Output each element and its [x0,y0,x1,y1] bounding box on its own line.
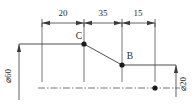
arrowhead-up-diameter-20 [174,65,178,73]
point-markers: C B [76,31,158,91]
diameter-60-dimension: ⌀60 [3,44,21,100]
arrowhead-left-seg1 [76,21,84,25]
diameter-20-label: ⌀20 [178,77,188,92]
horizontal-dimension-chain: 20 35 15 [42,8,155,82]
point-marker-c [81,41,86,46]
arrowhead-right-seg3 [122,21,130,25]
point-marker-b [119,62,124,67]
arrowhead-left-seg3 [147,21,155,25]
arrowhead-left-seg2 [114,21,122,25]
profile-taper-edge [84,44,122,65]
diameter-20-dimension: ⌀20 [174,65,188,97]
point-marker-axis [152,85,157,90]
point-label-c: C [76,31,82,41]
arrowhead-right-seg1 [42,21,50,25]
technical-drawing-canvas: 20 35 15 ⌀60 ⌀20 [0,0,196,104]
dimension-label-20: 20 [59,8,69,18]
arrowhead-up-diameter-60 [17,44,21,52]
dimension-label-35: 35 [99,8,109,18]
profile-geometry [19,44,176,65]
arrowhead-right-seg2 [84,21,92,25]
dimension-label-15: 15 [134,8,144,18]
diameter-60-label: ⌀60 [3,69,13,84]
point-label-b: B [127,51,133,61]
drawing-svg: 20 35 15 ⌀60 ⌀20 [0,0,196,104]
